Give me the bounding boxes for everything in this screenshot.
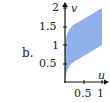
chart-plot xyxy=(0,0,110,102)
shaded-region xyxy=(65,8,102,82)
x-axis-arrow-icon xyxy=(104,80,109,85)
y-axis-arrow-icon xyxy=(62,2,68,7)
